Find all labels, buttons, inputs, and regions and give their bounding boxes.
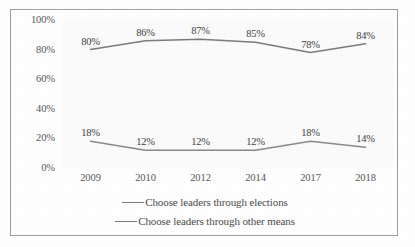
legend-line-icon <box>122 202 144 203</box>
y-axis-tick-label: 100% <box>31 15 55 25</box>
data-point-label: 18% <box>301 127 320 138</box>
chart-legend: Choose leaders through elections Choose … <box>11 194 399 234</box>
data-point-label: 86% <box>136 27 155 38</box>
x-axis-tick-label: 2010 <box>135 172 156 184</box>
data-point-label: 18% <box>81 127 100 138</box>
y-axis: 0%20%40%60%80%100% <box>11 20 59 168</box>
legend-label: Choose leaders through other means <box>138 215 295 228</box>
series-line <box>91 39 366 52</box>
x-axis-tick-label: 2014 <box>245 172 266 184</box>
y-axis-tick-label: 60% <box>36 74 55 84</box>
legend-item-other-means[interactable]: Choose leaders through other means <box>11 213 399 229</box>
data-point-label: 12% <box>191 136 210 147</box>
x-axis-tick-label: 2012 <box>190 172 211 184</box>
data-point-label: 87% <box>191 25 210 36</box>
data-point-label: 14% <box>356 133 375 144</box>
x-axis: 200920102012201420172018 <box>63 172 393 188</box>
legend-item-elections[interactable]: Choose leaders through elections <box>11 194 399 210</box>
x-axis-tick-label: 2017 <box>300 172 321 184</box>
series-line <box>91 141 366 150</box>
x-axis-tick-label: 2018 <box>355 172 376 184</box>
x-axis-tick-label: 2009 <box>80 172 101 184</box>
data-point-label: 84% <box>356 30 375 41</box>
legend-label: Choose leaders through elections <box>145 196 288 209</box>
series-lines <box>63 20 393 168</box>
data-point-label: 85% <box>246 28 265 39</box>
legend-line-icon <box>115 221 137 222</box>
y-axis-tick-label: 20% <box>36 133 55 143</box>
data-point-label: 80% <box>81 36 100 47</box>
chart-frame: 0%20%40%60%80%100% 200920102012201420172… <box>10 9 398 236</box>
y-axis-tick-label: 0% <box>41 163 55 173</box>
y-axis-tick-label: 40% <box>36 104 55 114</box>
data-point-label: 78% <box>301 39 320 50</box>
data-point-label: 12% <box>246 136 265 147</box>
y-axis-tick-label: 80% <box>36 45 55 55</box>
data-point-label: 12% <box>136 136 155 147</box>
